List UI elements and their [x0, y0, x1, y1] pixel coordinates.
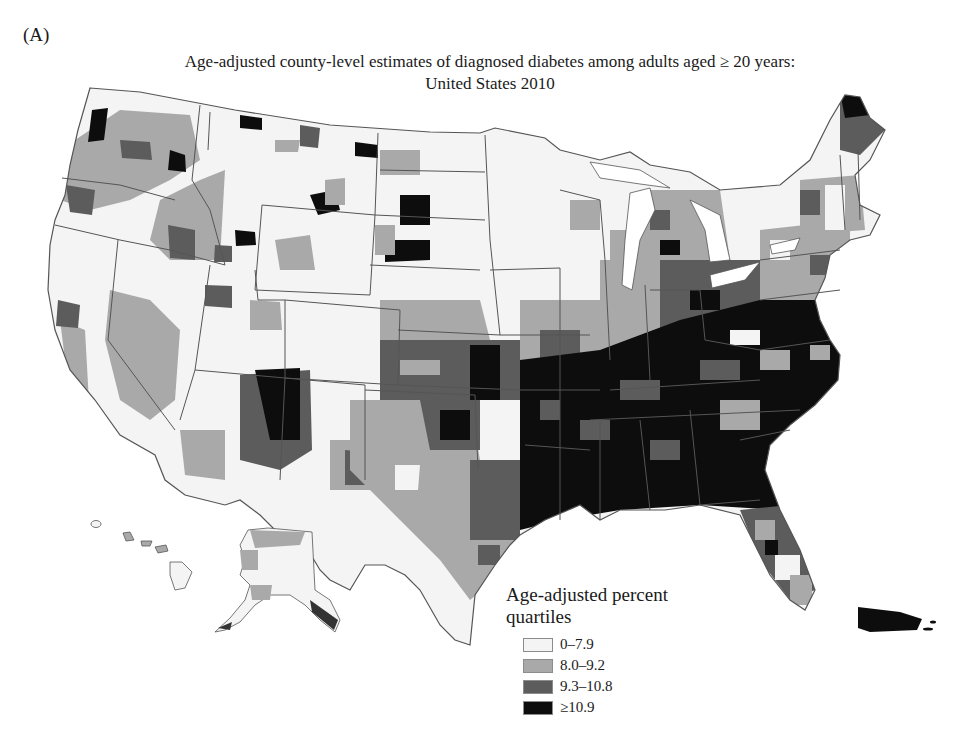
legend-label-q1: 0–7.9	[560, 636, 594, 653]
legend-label-q3: 9.3–10.8	[560, 678, 613, 695]
legend-swatch-q4	[523, 701, 553, 715]
contiguous-us	[0, 0, 968, 746]
legend-item-q1: 0–7.9	[523, 634, 668, 655]
legend-title-line1: Age-adjusted percent	[506, 584, 668, 606]
map-legend: Age-adjusted percent quartiles 0–7.9 8.0…	[506, 584, 668, 718]
legend-title-line2: quartiles	[506, 606, 668, 628]
legend-swatch-q2	[523, 659, 553, 673]
legend-label-q4: ≥10.9	[560, 699, 594, 716]
legend-item-q2: 8.0–9.2	[523, 655, 668, 676]
legend-item-q4: ≥10.9	[523, 697, 668, 718]
legend-label-q2: 8.0–9.2	[560, 657, 605, 674]
choropleth-map	[0, 0, 968, 746]
puerto-rico-inset	[858, 607, 936, 632]
legend-item-q3: 9.3–10.8	[523, 676, 668, 697]
legend-swatch-q1	[523, 638, 553, 652]
legend-swatch-q3	[523, 680, 553, 694]
hawaii-inset	[91, 521, 192, 591]
